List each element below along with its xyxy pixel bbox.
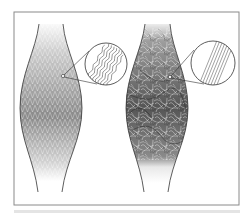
- tissue-diagram: [0, 0, 249, 219]
- figure-caption: [14, 209, 240, 215]
- caption-text: [14, 210, 240, 213]
